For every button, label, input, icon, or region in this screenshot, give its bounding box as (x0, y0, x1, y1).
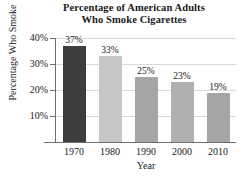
y-tick-label: 30% (2, 59, 48, 69)
chart-title: Percentage of American Adults Who Smoke … (34, 2, 234, 26)
bar-chart: Percentage of American Adults Who Smoke … (0, 0, 244, 185)
bar-value-label: 33% (93, 45, 127, 55)
x-tick-label-2010: 2010 (198, 146, 238, 157)
bar-2000[interactable] (171, 82, 194, 142)
x-axis-label: Year (56, 160, 236, 171)
bar-value-label: 25% (129, 66, 163, 76)
chart-title-line-2: Who Smoke Cigarettes (34, 14, 234, 26)
bar-2010[interactable] (207, 93, 230, 142)
x-tick-label-1990: 1990 (126, 146, 166, 157)
bar-1980[interactable] (99, 56, 122, 142)
y-tick-label: 10% (2, 111, 48, 121)
plot-area: 37%33%25%23%19% (56, 38, 236, 142)
bar-value-label: 19% (201, 82, 235, 92)
chart-title-line-1: Percentage of American Adults (34, 2, 234, 14)
bar-value-label: 23% (165, 71, 199, 81)
bar-value-label: 37% (57, 35, 91, 45)
x-tick-label-1980: 1980 (90, 146, 130, 157)
x-axis-line (44, 142, 236, 143)
bar-1970[interactable] (63, 46, 86, 142)
y-tick-label: 20% (2, 85, 48, 95)
bar-1990[interactable] (135, 77, 158, 142)
x-tick-label-1970: 1970 (54, 146, 94, 157)
x-tick-label-2000: 2000 (162, 146, 202, 157)
y-tick-label: 40% (2, 33, 48, 43)
